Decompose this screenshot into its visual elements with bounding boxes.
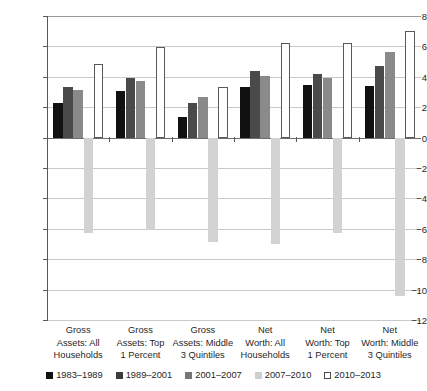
bar (271, 138, 281, 244)
bar (136, 81, 146, 138)
legend-swatch-icon (324, 372, 331, 379)
legend-label: 2001–2007 (195, 370, 242, 380)
y-tick-label: −6 (391, 223, 427, 234)
x-axis-label-0: GrossAssets: AllHouseholds (47, 324, 109, 362)
bar (156, 47, 166, 137)
bar-group (47, 16, 109, 320)
x-axis-tick (234, 137, 235, 142)
legend-item[interactable]: 2010–2013 (324, 370, 381, 380)
y-tick-mark (43, 259, 48, 260)
x-axis-label-1: GrossAssets: Top1 Percent (109, 324, 171, 362)
bar (375, 66, 385, 137)
legend-label: 2007–2010 (265, 370, 312, 380)
bar (218, 87, 228, 138)
legend-label: 2010–2013 (334, 370, 381, 380)
legend-item[interactable]: 2001–2007 (185, 370, 242, 380)
bar (198, 97, 208, 138)
y-tick-mark (43, 107, 48, 108)
bar (84, 138, 94, 234)
y-tick-mark (43, 46, 48, 47)
plot-area (47, 16, 421, 320)
y-tick-label: 8 (391, 11, 427, 22)
y-tick-label: −10 (391, 284, 427, 295)
bar-group (109, 16, 171, 320)
bar (313, 74, 323, 138)
y-tick-label: 0 (391, 132, 427, 143)
x-axis-label-2: GrossAssets: Middle3 Quintiles (172, 324, 234, 362)
y-tick-label: −8 (391, 254, 427, 265)
x-axis-tick (359, 137, 360, 142)
legend-item[interactable]: 1989–2001 (116, 370, 173, 380)
x-axis-label-3: NetWorth: AllHouseholds (234, 324, 296, 362)
bar (333, 138, 343, 234)
y-tick-label: 4 (391, 71, 427, 82)
bar (188, 103, 198, 138)
legend-swatch-icon (116, 372, 123, 379)
y-tick-mark (43, 168, 48, 169)
bar (126, 78, 136, 137)
y-tick-mark (43, 198, 48, 199)
bar (240, 87, 250, 138)
x-axis-tick (296, 137, 297, 142)
bar (53, 103, 63, 138)
bar-group (234, 16, 296, 320)
y-tick-label: 2 (391, 102, 427, 113)
bar (208, 138, 218, 243)
x-axis-label-5: NetWorth: Middle3 Quintiles (359, 324, 421, 362)
legend-item[interactable]: 1983–1989 (46, 370, 103, 380)
bar (63, 87, 73, 137)
bar (385, 52, 395, 137)
y-tick-label: −2 (391, 163, 427, 174)
bar (395, 138, 405, 296)
bar (146, 138, 156, 231)
y-tick-mark (43, 16, 48, 17)
legend-swatch-icon (255, 372, 262, 379)
bar (281, 43, 291, 137)
legend-swatch-icon (46, 372, 53, 379)
legend-swatch-icon (185, 372, 192, 379)
bar-group (172, 16, 234, 320)
bar (250, 71, 260, 137)
y-tick-label: 6 (391, 41, 427, 52)
x-axis-label-4: NetWorth: Top1 Percent (296, 324, 358, 362)
chart-legend: 1983–19891989–20012001–20072007–20102010… (0, 370, 427, 380)
x-axis-category-labels: GrossAssets: AllHouseholdsGrossAssets: T… (47, 324, 421, 368)
gridline--12 (47, 320, 421, 321)
legend-label: 1983–1989 (56, 370, 103, 380)
x-axis-tick (172, 137, 173, 142)
bar (260, 76, 270, 138)
y-tick-mark (43, 77, 48, 78)
y-tick-label: −4 (391, 193, 427, 204)
y-tick-mark (43, 320, 48, 321)
bar (73, 90, 83, 137)
bar-group (296, 16, 358, 320)
x-axis-tick (109, 137, 110, 142)
legend-label: 1989–2001 (126, 370, 173, 380)
bar (365, 86, 375, 138)
bar (323, 78, 333, 138)
y-tick-mark (43, 290, 48, 291)
bar-chart: 86420−2−4−6−8−10−12 GrossAssets: AllHous… (0, 0, 427, 391)
bar (303, 85, 313, 137)
y-tick-mark (43, 138, 48, 139)
y-tick-mark (43, 229, 48, 230)
bar (343, 43, 353, 137)
bar (178, 117, 188, 138)
legend-item[interactable]: 2007–2010 (255, 370, 312, 380)
bar (94, 64, 104, 138)
bar (116, 91, 126, 137)
